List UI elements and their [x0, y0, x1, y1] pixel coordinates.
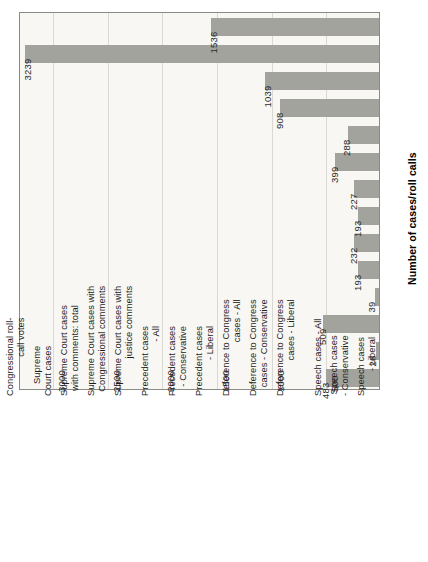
gridline [162, 13, 163, 389]
bar-row [18, 99, 379, 117]
gridline [108, 13, 109, 389]
bar [211, 18, 379, 36]
category-label: Deference to Congress cases - Conservati… [248, 299, 269, 396]
bar-row [18, 207, 379, 225]
bar-row [18, 72, 379, 90]
bar-row [18, 180, 379, 198]
category-label: Precedent cases - All [140, 326, 161, 396]
bar-row [18, 288, 379, 306]
category-label: Deference to Congress cases - Liberal [275, 299, 296, 396]
category-label: Precedent cases - Liberal [194, 326, 215, 396]
category-label: Congressional roll- call votes [5, 318, 26, 396]
category-label: Supreme Court cases [32, 346, 53, 396]
bar-row [18, 153, 379, 171]
bar-value-label: 1536 [208, 31, 219, 53]
gridline [53, 13, 54, 389]
category-label: Precedent cases - Conservative [167, 326, 188, 396]
category-label: Speech cases - Conservative [329, 335, 350, 396]
category-label: Deference to Congress cases - All [221, 299, 242, 396]
bar [280, 99, 379, 117]
gridline [217, 13, 218, 389]
bar-row [18, 261, 379, 279]
gridline [272, 13, 273, 389]
bar [25, 45, 379, 63]
bar [323, 315, 379, 333]
category-label: Speech cases - Liberal [356, 337, 377, 396]
bar-value-label: 288 [342, 139, 353, 155]
category-label: Supreme Court cases with justice comment… [113, 286, 134, 396]
value-axis-title: Number of cases/roll calls [406, 152, 418, 285]
bar-chart-figure: 50010001500200025003000 1536323910399082… [0, 0, 428, 562]
bar [265, 72, 379, 90]
bar-row [18, 18, 379, 36]
bar-value-label: 399 [330, 166, 341, 182]
bar-row [18, 234, 379, 252]
bar-value-label: 193 [352, 274, 363, 290]
bar-value-label: 227 [348, 193, 359, 209]
bar-value-label: 1039 [262, 85, 273, 107]
bar-value-label: 193 [352, 220, 363, 236]
category-label: Supreme Court cases with comments: total [59, 305, 80, 396]
category-label: Speech cases - All [312, 319, 323, 396]
bar-value-label: 3239 [22, 58, 33, 80]
bar-row [18, 45, 379, 63]
bar-row [18, 126, 379, 144]
bar-value-label: 39 [366, 301, 377, 312]
bar-value-label: 908 [274, 112, 285, 128]
bar-value-label: 232 [348, 247, 359, 263]
category-label: Supreme Court cases with Congressional c… [86, 286, 107, 396]
